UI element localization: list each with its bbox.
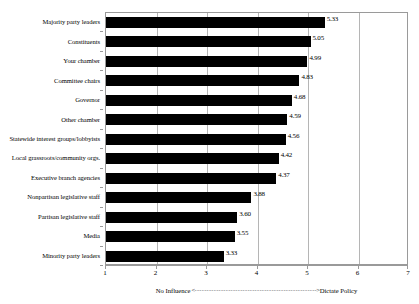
category-tickmark — [100, 246, 103, 247]
bar-row: 5.05 — [106, 32, 407, 51]
category-tickmark — [100, 226, 103, 227]
bar-value-label: 4.83 — [301, 73, 312, 81]
bar — [106, 134, 286, 145]
category-label: Executive branch agencies — [31, 168, 100, 187]
category-label: Minority party leaders — [42, 246, 100, 265]
bar-row: 4.83 — [106, 71, 407, 90]
axis-caption: No Influence < -------------------------… — [105, 283, 408, 297]
category-label: Other chamber — [61, 109, 100, 128]
bar-value-label: 5.33 — [327, 15, 338, 23]
bar — [106, 56, 307, 67]
axis-caption-connector: ----------------------------------------… — [194, 287, 316, 294]
bar-row: 3.88 — [106, 188, 407, 207]
x-tick-label-6: 6 — [356, 269, 360, 277]
category-axis-labels: Majority party leadersConstituentsYour c… — [0, 12, 103, 265]
bar — [106, 153, 279, 164]
bar-row: 4.99 — [106, 52, 407, 71]
category-tickmark — [100, 90, 103, 91]
bar — [106, 251, 224, 262]
x-tick-label-4: 4 — [255, 269, 259, 277]
bar — [106, 173, 276, 184]
bar-row: 4.42 — [106, 149, 407, 168]
x-tick-label-2: 2 — [154, 269, 158, 277]
bar-row: 5.33 — [106, 13, 407, 32]
bar-row: 3.55 — [106, 227, 407, 246]
category-label: Majority party leaders — [43, 12, 101, 31]
x-axis-tick-labels: 1234567 — [105, 269, 408, 281]
bar-row: 3.60 — [106, 208, 407, 227]
bar-row: 4.56 — [106, 130, 407, 149]
category-label: Constituents — [68, 31, 100, 50]
category-tickmark — [100, 168, 103, 169]
category-tickmark — [100, 51, 103, 52]
category-tickmark — [100, 187, 103, 188]
category-label: Partisan legislative staff — [38, 207, 100, 226]
category-tickmark — [100, 31, 103, 32]
bar-value-label: 5.05 — [313, 34, 324, 42]
category-label: Committee chairs — [54, 70, 100, 89]
category-label: Governor — [75, 90, 100, 109]
bar-value-label: 3.60 — [239, 210, 250, 218]
bar — [106, 36, 311, 47]
bar — [106, 75, 299, 86]
x-tick-label-5: 5 — [305, 269, 309, 277]
axis-caption-right-label: Dictate Policy — [319, 287, 359, 294]
category-tickmark — [100, 148, 103, 149]
bar-value-label: 4.56 — [288, 132, 299, 140]
plot-area: 5.335.054.994.834.684.594.564.424.373.88… — [105, 12, 408, 265]
bar-row: 3.33 — [106, 247, 407, 266]
bar — [106, 114, 287, 125]
bar-rows: 5.335.054.994.834.684.594.564.424.373.88… — [106, 13, 407, 264]
x-axis-line — [105, 265, 408, 266]
bar-value-label: 4.37 — [278, 171, 289, 179]
category-label: Your chamber — [63, 51, 100, 70]
x-tick-label-7: 7 — [406, 269, 410, 277]
bar-row: 4.37 — [106, 169, 407, 188]
category-label: Media — [83, 226, 100, 245]
bar-value-label: 4.42 — [281, 151, 292, 159]
x-tick-label-1: 1 — [103, 269, 107, 277]
bar-row: 4.68 — [106, 91, 407, 110]
bar — [106, 17, 325, 28]
bar-value-label: 3.88 — [253, 190, 264, 198]
category-label: Nonpartisan legislative staff — [27, 187, 100, 206]
category-tickmark — [100, 109, 103, 110]
bar-value-label: 4.59 — [289, 112, 300, 120]
bar — [106, 231, 235, 242]
category-label: Statewide interest groups/lobbyists — [9, 129, 100, 148]
bar-value-label: 3.33 — [226, 249, 237, 257]
bar-value-label: 4.68 — [294, 93, 305, 101]
category-tickmark — [100, 265, 103, 266]
x-tick-label-3: 3 — [204, 269, 208, 277]
category-label: Local grassroots/community orgs. — [12, 148, 100, 167]
category-tickmark — [100, 70, 103, 71]
bar — [106, 212, 237, 223]
bar — [106, 95, 292, 106]
bar-value-label: 4.99 — [309, 54, 320, 62]
category-tickmark — [100, 207, 103, 208]
category-tickmark — [100, 129, 103, 130]
bar — [106, 192, 251, 203]
axis-caption-left-label: No Influence — [155, 287, 192, 294]
bar-row: 4.59 — [106, 110, 407, 129]
bar-value-label: 3.55 — [237, 229, 248, 237]
chart-figure: Majority party leadersConstituentsYour c… — [0, 0, 419, 304]
